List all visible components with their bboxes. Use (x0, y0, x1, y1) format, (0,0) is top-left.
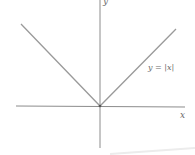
y-axis-label: y (103, 0, 108, 6)
plot-area (0, 0, 195, 155)
origin-point (99, 105, 102, 108)
abs-value-graph: y x y = |x| (0, 0, 195, 155)
curve-label: y = |x| (148, 64, 174, 72)
paper-edge (110, 148, 195, 154)
x-axis-label: x (180, 111, 185, 120)
